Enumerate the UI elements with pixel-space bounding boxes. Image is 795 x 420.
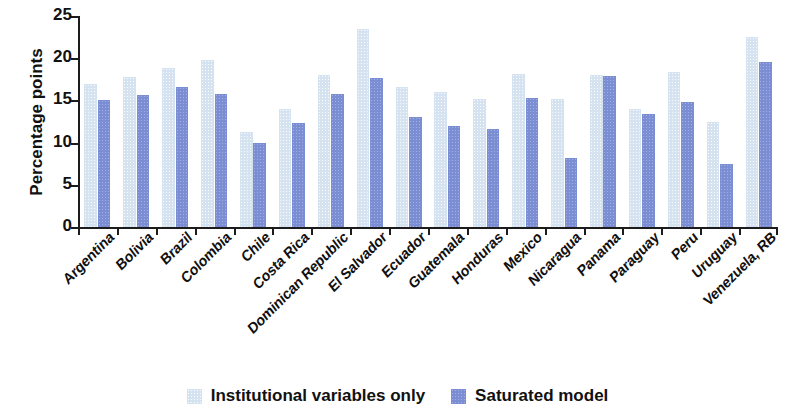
x-axis-label: Argentina — [60, 229, 118, 287]
bar-institutional-variables-only — [707, 122, 720, 227]
bar-group — [201, 16, 227, 227]
bar-group — [162, 16, 188, 227]
bar-institutional-variables-only — [279, 109, 292, 227]
x-axis-label-text: Bolivia — [113, 228, 155, 274]
bar-saturated-model — [603, 76, 616, 227]
bar-institutional-variables-only — [551, 99, 564, 227]
bar-group — [123, 16, 149, 227]
bar-group — [668, 16, 694, 227]
legend-item: Institutional variables only — [187, 386, 425, 406]
bar-group — [318, 16, 344, 227]
y-tick-mark — [71, 143, 79, 145]
plot-area: 0510152025 — [78, 16, 778, 227]
bar-institutional-variables-only — [473, 99, 486, 227]
bar-group — [551, 16, 577, 227]
legend-label: Saturated model — [475, 386, 608, 406]
y-tick-label: 20 — [53, 47, 72, 67]
y-axis-line — [78, 16, 80, 228]
bar-saturated-model — [370, 78, 383, 227]
bar-saturated-model — [215, 94, 228, 227]
y-tick-label: 5 — [63, 174, 72, 194]
bar-group — [396, 16, 422, 227]
bar-institutional-variables-only — [629, 109, 642, 227]
bar-group — [279, 16, 305, 227]
bar-saturated-model — [176, 87, 189, 227]
bar-institutional-variables-only — [746, 37, 759, 227]
y-tick-mark — [71, 16, 79, 18]
bar-institutional-variables-only — [357, 29, 370, 227]
legend-swatch — [451, 389, 466, 404]
bar-group — [240, 16, 266, 227]
y-tick-mark — [71, 100, 79, 102]
x-axis-label: Bolivia — [113, 229, 157, 273]
x-axis-label-text: Argentina — [61, 228, 117, 287]
bar-institutional-variables-only — [434, 92, 447, 227]
bar-group — [590, 16, 616, 227]
bar-saturated-model — [526, 98, 539, 227]
y-tick-mark — [71, 58, 79, 60]
bar-institutional-variables-only — [396, 87, 409, 227]
bar-institutional-variables-only — [240, 132, 253, 227]
y-tick-label: 10 — [53, 132, 72, 152]
legend-swatch — [187, 389, 202, 404]
legend-label: Institutional variables only — [211, 386, 425, 406]
bar-saturated-model — [137, 95, 150, 228]
y-tick-label: 25 — [53, 5, 72, 25]
chart-legend: Institutional variables onlySaturated mo… — [0, 386, 795, 406]
bar-institutional-variables-only — [84, 84, 97, 227]
bar-saturated-model — [409, 117, 422, 227]
bar-institutional-variables-only — [668, 72, 681, 227]
bar-saturated-model — [292, 123, 305, 227]
x-axis-label: Chile — [238, 229, 274, 265]
bar-saturated-model — [487, 129, 500, 227]
bar-group — [629, 16, 655, 227]
bar-saturated-model — [759, 62, 772, 227]
bar-group — [473, 16, 499, 227]
bar-institutional-variables-only — [590, 75, 603, 227]
bar-group — [746, 16, 772, 227]
y-tick-label: 0 — [63, 216, 72, 236]
x-axis-label-text: Chile — [238, 228, 272, 265]
bar-institutional-variables-only — [201, 60, 214, 227]
bar-saturated-model — [720, 164, 733, 227]
bar-institutional-variables-only — [123, 77, 136, 227]
bar-institutional-variables-only — [512, 74, 525, 227]
bar-saturated-model — [681, 102, 694, 227]
bar-saturated-model — [642, 114, 655, 227]
x-axis-label: Peru — [668, 229, 702, 263]
bar-group — [434, 16, 460, 227]
x-axis-label-text: Peru — [668, 228, 700, 263]
y-axis-title: Percentage points — [27, 7, 47, 237]
bar-group — [512, 16, 538, 227]
bar-institutional-variables-only — [318, 75, 331, 227]
bar-chart-figure: Percentage points 0510152025 ArgentinaBo… — [0, 0, 795, 420]
bar-saturated-model — [98, 100, 111, 227]
bar-group — [357, 16, 383, 227]
x-axis-labels: ArgentinaBoliviaBrazilColombiaChileCosta… — [78, 229, 778, 359]
bar-saturated-model — [448, 126, 461, 227]
bar-saturated-model — [253, 143, 266, 227]
y-tick-label: 15 — [53, 89, 72, 109]
y-tick-mark — [71, 185, 79, 187]
legend-item: Saturated model — [451, 386, 608, 406]
bar-institutional-variables-only — [162, 68, 175, 227]
bar-group — [84, 16, 110, 227]
bar-saturated-model — [565, 158, 578, 227]
bar-group — [707, 16, 733, 227]
bar-saturated-model — [331, 94, 344, 227]
